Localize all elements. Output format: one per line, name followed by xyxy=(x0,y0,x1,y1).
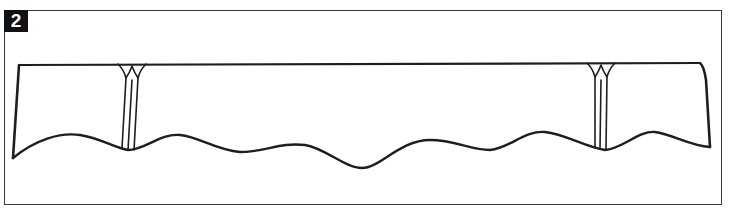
right-pleat-lines xyxy=(587,63,615,149)
left-pleat-lines xyxy=(118,64,146,150)
valance-illustration xyxy=(0,0,736,219)
valance-top-edge xyxy=(19,63,700,65)
valance-right-edge xyxy=(700,63,710,147)
valance-left-edge xyxy=(13,65,19,158)
